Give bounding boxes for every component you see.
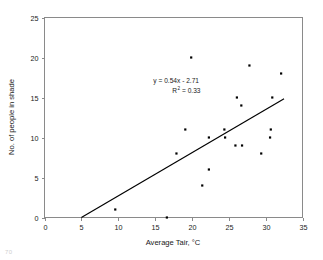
data-point-marker: [190, 56, 192, 58]
y-tick-label: 15: [31, 94, 39, 103]
y-axis-ticks: 0510152025: [31, 14, 45, 223]
chart-canvas: 0510152025 05101520253035 y = 0.54x - 2.…: [0, 0, 323, 260]
data-point-marker: [201, 184, 203, 186]
x-axis-title: Average Tair, °C: [146, 238, 201, 247]
data-point-marker: [236, 96, 238, 98]
data-point-marker: [269, 136, 271, 138]
r-squared-exponent: 2: [178, 86, 181, 91]
x-tick-label: 25: [226, 223, 234, 232]
data-point-marker: [270, 128, 272, 130]
data-point-marker: [166, 216, 168, 218]
data-point-marker: [223, 128, 225, 130]
data-point-marker: [260, 152, 262, 154]
x-tick-label: 0: [44, 223, 48, 232]
y-tick-label: 25: [31, 14, 39, 23]
axes-group: [44, 17, 303, 218]
trendline-group: [81, 99, 284, 218]
scatter-plot-figure: 0510152025 05101520253035 y = 0.54x - 2.…: [0, 0, 323, 260]
x-tick-label: 20: [189, 223, 197, 232]
data-point-marker: [184, 128, 186, 130]
scan-artifact-text: 70: [5, 249, 13, 255]
y-tick-label: 20: [31, 54, 39, 63]
data-point-marker: [208, 168, 210, 170]
y-axis-title: No. of people in shade: [7, 79, 16, 155]
data-point-marker: [248, 64, 250, 66]
data-point-marker: [208, 136, 210, 138]
data-point-marker: [280, 72, 282, 74]
data-point-marker: [114, 208, 116, 210]
x-tick-label: 30: [263, 223, 271, 232]
x-axis-ticks: 05101520253035: [44, 218, 308, 232]
x-tick-label: 10: [115, 223, 123, 232]
data-point-marker: [271, 96, 273, 98]
regression-trendline: [81, 99, 284, 218]
y-tick-label: 10: [31, 134, 39, 143]
regression-annotation: y = 0.54x - 2.71 R 2 = 0.33: [153, 77, 200, 94]
data-point-marker: [224, 136, 226, 138]
r-squared-value: = 0.33: [182, 87, 201, 94]
equation-label: y = 0.54x - 2.71: [153, 77, 199, 85]
data-point-marker: [175, 152, 177, 154]
x-tick-label: 15: [152, 223, 160, 232]
y-tick-label: 0: [35, 214, 39, 223]
x-tick-label: 5: [80, 223, 84, 232]
y-tick-label: 5: [35, 174, 39, 183]
data-point-marker: [240, 104, 242, 106]
data-point-marker: [241, 144, 243, 146]
x-tick-label: 35: [300, 223, 308, 232]
r-squared-label: R: [172, 87, 177, 94]
data-point-marker: [234, 144, 236, 146]
